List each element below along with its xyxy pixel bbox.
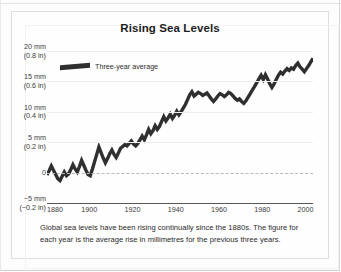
gridline-20mm <box>47 51 313 52</box>
y-tick-inch: (0.8 in) <box>0 52 46 61</box>
x-axis-labels: 1880190019201940196019802000 <box>47 205 327 217</box>
y-tick-inch: (0.4 in) <box>0 112 46 121</box>
x-tick-label-1900: 1900 <box>81 205 97 214</box>
top-divider <box>0 3 341 4</box>
y-tick-label-2: 10 mm(0.4 in) <box>0 104 46 121</box>
y-tick-label-0: 20 mm(0.8 in) <box>0 43 46 60</box>
y-tick-inch: (0.2 in) <box>0 143 46 152</box>
y-tick-label-5: −5 mm(−0.2 in) <box>0 195 46 212</box>
y-axis-labels: 20 mm(0.8 in)15 mm(0.6 in)10 mm(0.4 in)5… <box>0 45 46 215</box>
y-tick-label-1: 15 mm(0.6 in) <box>0 73 46 90</box>
gridline-10mm <box>47 112 313 113</box>
gridline-15mm <box>47 81 313 82</box>
x-tick-label-1880: 1880 <box>47 205 63 214</box>
legend-series-label: Three-year average <box>95 62 158 71</box>
y-tick-mm: 5 mm <box>28 133 46 142</box>
x-tick-label-2000: 2000 <box>298 205 314 214</box>
page-title: Rising Sea Levels <box>11 22 329 34</box>
y-tick-inch: (−0.2 in) <box>0 204 46 213</box>
line-swatch-icon <box>60 63 90 71</box>
x-tick-label-1960: 1960 <box>211 205 227 214</box>
y-tick-inch: (0.6 in) <box>0 82 46 91</box>
x-axis-line <box>47 203 313 204</box>
x-tick-label-1920: 1920 <box>125 205 141 214</box>
x-tick-label-1940: 1940 <box>168 205 184 214</box>
figure-caption: Global sea levels have been rising conti… <box>40 222 308 245</box>
y-tick-mm: −5 mm <box>24 194 46 203</box>
y-tick-label-3: 5 mm(0.2 in) <box>0 134 46 151</box>
zero-reference-line <box>47 173 313 174</box>
chart-legend: Three-year average <box>60 62 158 71</box>
y-tick-mm: 0 <box>42 168 46 177</box>
y-tick-label-4: 0 <box>0 169 46 178</box>
y-tick-mm: 20 mm <box>24 42 46 51</box>
gridline-5mm <box>47 142 313 143</box>
x-tick-label-1980: 1980 <box>254 205 270 214</box>
page-background: Rising Sea Levels 20 mm(0.8 in)15 mm(0.6… <box>0 0 341 272</box>
